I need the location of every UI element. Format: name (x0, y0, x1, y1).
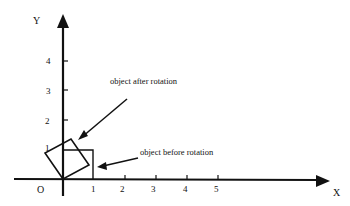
x-axis (14, 179, 318, 180)
x-tick-label-4: 4 (183, 184, 188, 194)
y-tick-label-4: 4 (46, 56, 51, 66)
y-tick-label-2: 2 (45, 116, 50, 126)
y-axis-label: Y (33, 15, 40, 26)
y-tick-label-3: 3 (46, 86, 51, 96)
x-tick-label-2: 2 (120, 184, 125, 194)
y-tick-label-1: 1 (45, 143, 50, 153)
x-axis-arrow-icon (316, 175, 330, 187)
diagram-svg: Y X O 1 2 3 4 1 2 3 4 5 object after rot… (0, 0, 350, 206)
x-axis-label: X (333, 187, 341, 198)
before-arrow-head-icon (97, 162, 107, 170)
x-tick-label-3: 3 (151, 184, 156, 194)
before-arrow-line (103, 158, 138, 166)
x-tick-label-5: 5 (214, 184, 219, 194)
label-object-after-rotation: object after rotation (110, 76, 178, 86)
y-axis-arrow-icon (57, 14, 69, 28)
object-after-rotation (45, 139, 89, 179)
x-tick-label-1: 1 (91, 184, 96, 194)
after-arrow-line (82, 99, 127, 137)
label-object-before-rotation: object before rotation (140, 147, 214, 157)
origin-label: O (37, 184, 44, 195)
after-arrow-head-icon (78, 130, 88, 140)
rotation-diagram: Y X O 1 2 3 4 1 2 3 4 5 object after rot… (0, 0, 350, 206)
